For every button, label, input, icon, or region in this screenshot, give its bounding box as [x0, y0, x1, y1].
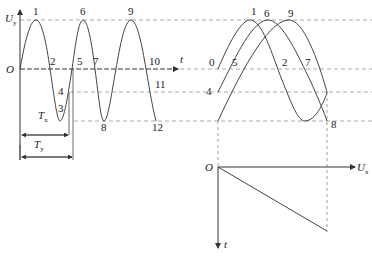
lj-point-1: 1: [251, 5, 257, 17]
point-4: 4: [58, 85, 64, 97]
t-label-down: t: [224, 238, 228, 250]
point-6: 6: [80, 5, 86, 17]
point-8: 8: [101, 121, 107, 133]
point-11: 11: [155, 78, 166, 90]
lj-point-6: 6: [264, 7, 270, 19]
point-5: 5: [77, 55, 83, 67]
point-12: 12: [152, 121, 163, 133]
lj-point-7: 7: [305, 56, 311, 68]
lj-point-9: 9: [288, 7, 294, 19]
lj-point-8: 8: [331, 118, 337, 130]
lj-point-4: 4: [206, 85, 212, 97]
lissajous-curve-a: [218, 20, 327, 121]
point-1: 1: [33, 5, 39, 17]
origin-label-right: O: [205, 161, 213, 173]
point-2: 2: [50, 55, 56, 67]
ux-label: Ux: [357, 161, 369, 176]
right-plot: 1 6 9 0 5 2 7 4 8 O Ux t: [205, 5, 369, 250]
sine-wave: [20, 20, 156, 121]
point-3: 3: [58, 102, 64, 114]
point-7: 7: [93, 55, 99, 67]
tx-label: Tx: [38, 109, 48, 124]
lissajous-construction-diagram: Uy O t 1 2 3 4 5 6 7 8 9 10 11 12 Tx Ty …: [0, 0, 372, 258]
lj-point-5: 5: [232, 56, 238, 68]
time-ramp-line: [218, 167, 327, 231]
ty-label: Ty: [34, 138, 44, 153]
left-plot: Uy O t 1 2 3 4 5 6 7 8 9 10 11 12 Tx Ty: [5, 5, 372, 160]
uy-label: Uy: [5, 12, 17, 27]
point-10: 10: [149, 55, 161, 67]
point-9: 9: [128, 5, 134, 17]
lj-point-0: 0: [209, 56, 215, 68]
t-axis-label: t: [180, 53, 184, 65]
lj-point-2: 2: [282, 56, 288, 68]
origin-label: O: [6, 63, 14, 75]
